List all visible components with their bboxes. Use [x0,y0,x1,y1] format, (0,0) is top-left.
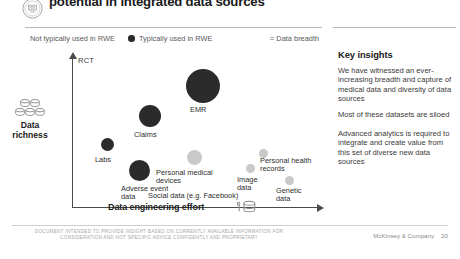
bubble-emr[interactable] [186,69,220,103]
label-labs: Labs [95,156,135,164]
footer-divider [12,225,448,226]
page-title: potential in integrated data sources [49,0,324,9]
key-insights-title: Key insights [338,49,454,60]
header-divider-left [25,27,322,28]
bubble-labs[interactable] [101,138,114,151]
header-divider-right [333,27,456,28]
bubble-genetic-data[interactable] [285,176,294,185]
legend-not-typically-used-label: Not typically used in RWE [30,32,115,45]
label-image-data: Image data [237,176,267,193]
y-axis-title-group: Datarichness [2,98,58,140]
bubble-personal-medical-devices[interactable] [187,150,202,165]
footer-brand: McKinsey & Company20 [373,232,448,239]
rct-axis-top-label: RCT [78,56,94,65]
label-claims: Claims [134,131,180,139]
x-axis-arrow-icon [317,204,324,212]
svg-text:1932: 1932 [29,10,36,14]
label-personal-health-records: Personal health records [260,157,322,174]
x-axis-title: Data engineering effort [108,202,204,212]
brand-name: McKinsey & Company [373,232,434,239]
bubble-image-data[interactable] [246,164,255,173]
page-number: 20 [441,232,448,239]
legend-filled-circle-icon [128,35,135,42]
key-insight-paragraph-1: We have witnessed an ever-increasing bre… [338,66,454,104]
legend-typically-used-label: Typically used in RWE [139,32,212,45]
y-axis-title: Datarichness [2,121,58,140]
key-insight-paragraph-3: Advanced analytics is required to integr… [338,129,454,167]
legend-data-breadth-label: = Data breadth [270,32,319,45]
circular-seal-logo-icon: 1932 [22,0,43,19]
database-stack-icon [13,98,47,118]
footer-disclaimer: DOCUMENT INTENDED TO PROVIDE INSIGHT BAS… [14,229,304,241]
key-insights-panel: Key insights We have witnessed an ever-i… [338,49,454,173]
key-insight-paragraph-2: Most of these datasets are siloed [338,110,454,119]
chart-legend: Not typically used in RWE Typically used… [25,32,325,45]
x-axis-title-group: Data engineering effort [108,200,283,216]
slide-title-block: 1932 potential in integrated data source… [0,0,330,26]
bubble-claims[interactable] [139,105,161,127]
label-personal-medical-devices: Personal medical devices [156,169,222,186]
label-emr: EMR [190,106,230,114]
database-icon [236,200,258,214]
y-axis-line [72,58,73,208]
